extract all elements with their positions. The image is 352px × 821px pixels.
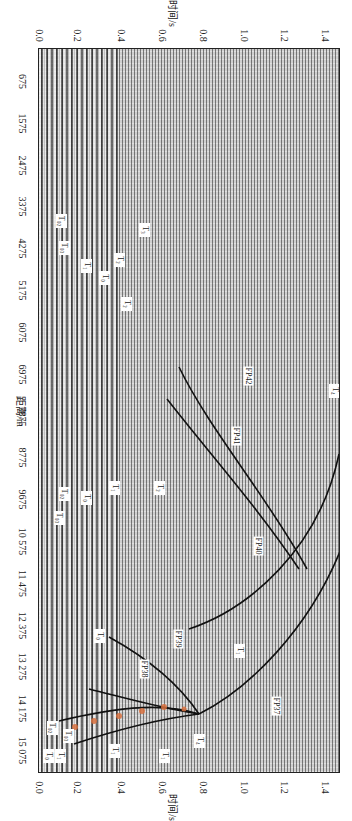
time-tick: 0.4 [116,21,127,51]
horizon-label-t1: T₁ [81,259,92,273]
distance-tick: 3375 [17,187,28,227]
distance-axis-title: 距离/m [14,396,29,427]
time-tick: 0.2 [72,21,83,51]
distance-tick: 1575 [17,104,28,144]
distance-tick: 14 175 [17,689,28,729]
horizon-label-t4: T₄ [329,384,340,398]
horizon-label-t2-b: T₂ [154,481,165,495]
time-tick: 0.8 [198,21,209,51]
time-tick: 1.4 [320,773,331,803]
distance-tick: 2475 [17,146,28,186]
horizon-label-t02-d: T₀₂ [47,721,58,735]
fault-fp40-line [189,454,339,629]
fault-fp41-line [167,399,299,569]
distance-tick: 6075 [17,313,28,353]
time-tick: 0.4 [116,773,127,803]
distance-tick: 8775 [17,438,28,478]
time-tick: 1.2 [279,773,290,803]
distance-tick: 10 575 [17,522,28,562]
horizon-label-t1-e: T₁ [109,744,120,758]
fault-label-fp42: FP42 [243,367,253,386]
time-tick: 0.6 [157,21,168,51]
horizon-label-t0-c: T₀ [94,629,105,643]
horizon-label-t2b: T₂ [121,297,132,311]
time-axis-title-top: 时间/s [166,0,181,27]
distance-tick: 11 475 [17,564,28,604]
fault-label-fp37: FP37 [271,697,281,716]
time-tick: 1.0 [239,21,250,51]
distance-tick: 4275 [17,229,28,269]
horizon-label-t1-b: T₁ [109,481,120,495]
time-tick: 1.0 [239,773,250,803]
horizon-label-t3: T₃ [139,223,150,237]
fault-label-fp38: FP38 [139,660,149,679]
horizon-label-t03: T₀₃ [59,241,70,255]
time-tick: 0.2 [72,773,83,803]
fault-lines [39,49,340,773]
horizon-label-t0-b: T₀ [81,491,92,505]
seismic-section-plot: FP42 FP41 FP40 FP39 FP38 FP37 T₀₂ T₀₃ T₁… [38,48,340,773]
fault-fp42-line [179,367,307,569]
horizon-label-t02: T₀₂ [56,214,67,228]
distance-tick: 12 375 [17,606,28,646]
distance-tick: 675 [17,62,28,102]
horizon-label-t03-b: T₀₃ [54,511,65,525]
time-tick: 0.8 [198,773,209,803]
fault-fp37-line [199,549,340,714]
fault-label-fp41: FP41 [231,427,241,446]
horizon-label-t0-d: T₀ [43,749,54,763]
horizon-label-t0: T₀ [99,271,110,285]
horizon-label-t02-b: T₀₂ [59,487,70,501]
time-tick: 0.0 [34,773,45,803]
time-tick: 0.0 [34,21,45,51]
horizon-label-t1-f: T₁ [159,749,170,763]
distance-tick: 15 075 [17,731,28,771]
time-tick: 1.4 [320,21,331,51]
distance-tick: 6975 [17,355,28,395]
time-tick: 1.2 [279,21,290,51]
fault-fp39-line [109,637,199,714]
time-axis-title-bottom: 时间/s [166,794,181,821]
fault-label-fp40: FP40 [253,537,263,556]
horizon-label-t03-d: T₀₃ [63,729,74,743]
distance-tick: 13 275 [17,647,28,687]
fault-label-fp39: FP39 [173,630,183,649]
horizon-label-t1-c: T₁ [234,644,245,658]
horizon-label-t1-d: T₁ [55,749,66,763]
distance-tick: 5175 [17,271,28,311]
horizon-label-t2: T₂ [114,253,125,267]
distance-tick: 9675 [17,480,28,520]
horizon-label-t4-d: T₄ [194,734,205,748]
